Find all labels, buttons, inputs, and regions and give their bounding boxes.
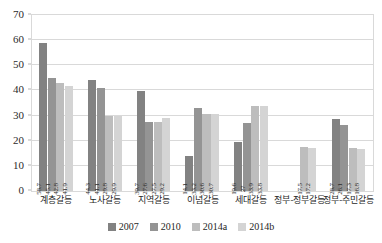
- bar-group: 19.62733.933.8: [234, 15, 268, 191]
- bar: 41.1: [97, 88, 105, 191]
- x-axis: 계층갈등노사갈등지역갈등이념갈등세대갈등정부-정부갈등정부-주민갈등: [32, 196, 373, 214]
- bar-value-label: 27.5: [151, 183, 158, 194]
- y-tick-label: 50: [13, 59, 24, 70]
- bar: 30.7: [211, 114, 219, 191]
- legend: 200720102014a2014b: [0, 222, 382, 232]
- bar: 33.9: [251, 106, 259, 191]
- bar-value-label: 28.7: [329, 183, 336, 194]
- x-tick-label: 노사갈등: [89, 196, 121, 206]
- bar: 29.9: [114, 116, 122, 191]
- bar: 45.1: [48, 78, 56, 191]
- bar-chart: 010203040506070 58.745.142.841.944.341.1…: [0, 0, 382, 243]
- bar-value-label: 42.8: [53, 183, 60, 194]
- legend-label: 2010: [161, 222, 181, 232]
- bar-value-label: 17.5: [297, 183, 304, 194]
- x-tick-label: 정부-정부갈등: [274, 196, 325, 206]
- bar: 39.7: [137, 91, 145, 191]
- legend-item[interactable]: 2014b: [238, 222, 274, 232]
- bar: 41.9: [65, 86, 73, 191]
- bar: 27: [243, 123, 251, 191]
- bar-value-label: 29.2: [159, 183, 166, 194]
- bar-value-label: 30.7: [208, 183, 215, 194]
- legend-label: 2007: [119, 222, 139, 232]
- y-tick-label: 40: [13, 84, 24, 95]
- bar-value-label: 16.8: [354, 183, 361, 194]
- bar-value-label: 33.2: [191, 183, 198, 194]
- legend-label: 2014b: [249, 222, 274, 232]
- legend-swatch-icon: [238, 223, 246, 231]
- bar-value-label: 27.6: [142, 183, 149, 194]
- legend-swatch-icon: [108, 223, 116, 231]
- bar-group: 14.133.230.630.7: [185, 15, 219, 191]
- bar-group: 28.726.117.316.8: [332, 15, 366, 191]
- bar-value-label: 39.7: [134, 183, 141, 194]
- bar-value-label: 45.1: [45, 183, 52, 194]
- bar-value-label: 17.2: [305, 183, 312, 194]
- bar: 28.7: [332, 119, 340, 191]
- y-axis: 010203040506070: [0, 14, 28, 192]
- bar-value-label: 17.3: [346, 183, 353, 194]
- x-tick-label: 지역갈등: [138, 196, 170, 206]
- bar: 42.8: [56, 83, 64, 191]
- bar-value-label: 26.1: [337, 183, 344, 194]
- bar-value-label: 29.9: [111, 183, 118, 194]
- legend-item[interactable]: 2010: [150, 222, 181, 232]
- x-tick-label: 이념갈등: [187, 196, 219, 206]
- bars-layer: 58.745.142.841.944.341.129.829.939.727.6…: [32, 15, 373, 191]
- bar: 19.6: [234, 142, 242, 191]
- bar-value-label: 27: [240, 186, 247, 193]
- bar-group: 39.727.627.529.2: [137, 15, 171, 191]
- y-tick-label: 60: [13, 34, 24, 45]
- bar: 27.6: [145, 122, 153, 191]
- legend-item[interactable]: 2007: [108, 222, 139, 232]
- bar-value-label: 33.9: [248, 183, 255, 194]
- bar: 26.1: [340, 125, 348, 191]
- bar: 29.2: [162, 118, 170, 191]
- bar: 30.6: [202, 114, 210, 191]
- bar: 17.2: [308, 148, 316, 191]
- bar: 33.2: [194, 108, 202, 191]
- y-tick-label: 20: [13, 134, 24, 145]
- x-tick-label: 정부-주민갈등: [323, 196, 374, 206]
- bar-value-label: 33.8: [257, 183, 264, 194]
- y-tick-label: 0: [19, 185, 25, 196]
- x-tick-label: 계층갈등: [40, 196, 72, 206]
- bar-group: 58.745.142.841.9: [39, 15, 73, 191]
- bar-value-label: 41.9: [62, 183, 69, 194]
- bar-value-label: 44.3: [85, 183, 92, 194]
- bar-value-label: 29.8: [102, 183, 109, 194]
- y-tick-label: 70: [13, 9, 24, 20]
- legend-item[interactable]: 2014a: [192, 222, 227, 232]
- bar: 27.5: [154, 122, 162, 191]
- bar-value-label: 58.7: [36, 183, 43, 194]
- bar-value-label: 19.6: [231, 183, 238, 194]
- legend-swatch-icon: [192, 223, 200, 231]
- bar: 16.8: [357, 149, 365, 191]
- legend-swatch-icon: [150, 223, 158, 231]
- legend-label: 2014a: [203, 222, 227, 232]
- bar: 33.8: [260, 106, 268, 191]
- bar-value-label: 30.6: [199, 183, 206, 194]
- y-tick-label: 30: [13, 109, 24, 120]
- x-tick-label: 세대갈등: [235, 196, 267, 206]
- bar: 29.8: [105, 116, 113, 191]
- bar-value-label: 41.1: [94, 183, 101, 194]
- bar: 58.7: [39, 43, 47, 191]
- bar-group: 44.341.129.829.9: [88, 15, 122, 191]
- y-tick-label: 10: [13, 159, 24, 170]
- bar-value-label: 14.1: [182, 183, 189, 194]
- bar: 44.3: [88, 80, 96, 191]
- bar-group: 17.517.2: [283, 15, 317, 191]
